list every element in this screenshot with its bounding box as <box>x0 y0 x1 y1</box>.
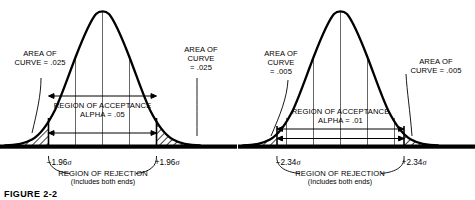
acceptance-region-label-line1: REGION OF ACCEPTANCE <box>284 107 397 116</box>
figure-caption: FIGURE 2-2 <box>4 189 58 199</box>
rejection-region-label-line2: (Includes both ends) <box>43 178 163 187</box>
critical-value-text-upper: +1.96 <box>155 158 176 167</box>
rejection-tail-left <box>11 11 103 146</box>
rejection-region-label-line1: REGION OF REJECTION <box>43 169 163 178</box>
acceptance-region-label-line1: REGION OF ACCEPTANCE <box>46 101 159 110</box>
critical-value-text-upper: +2.34 <box>402 158 423 167</box>
gridlines <box>287 11 395 146</box>
left-tail-area-annotation: AREA OF CURVE = .025 <box>2 49 78 67</box>
rejection-tail-left <box>249 11 341 146</box>
sigma-symbol-upper: σ <box>422 158 426 167</box>
right-tail-area-annotation: AREA OF CURVE = .005 <box>398 57 474 75</box>
rejection-region-label-line2: (Includes both ends) <box>280 178 400 187</box>
right-tail-area-annotation: AREA OF CURVE = .025 <box>172 45 230 72</box>
sigma-symbol-lower: σ <box>296 158 300 167</box>
chart-panel-alpha-01: AREA OF CURVE = .005 AREA OF CURVE = .00… <box>238 0 475 200</box>
rejection-tail-right <box>102 11 194 146</box>
acceptance-region-label-line2: ALPHA = .01 <box>284 116 397 125</box>
acceptance-region-label-line2: ALPHA = .05 <box>46 110 159 119</box>
left-tail-area-annotation: AREA OF CURVE = .005 <box>252 49 310 76</box>
figure-root: AREA OF CURVE = .025 AREA OF CURVE = .02… <box>0 0 475 200</box>
critical-value-text-lower: −2.34 <box>276 158 297 167</box>
chart-panel-alpha-05: AREA OF CURVE = .025 AREA OF CURVE = .02… <box>0 0 237 200</box>
sigma-symbol-lower: σ <box>67 158 71 167</box>
rejection-region-label-line1: REGION OF REJECTION <box>280 169 400 178</box>
rejection-tail-right <box>340 11 432 146</box>
gridlines <box>49 11 157 146</box>
critical-value-text-lower: −1.96 <box>47 158 68 167</box>
sigma-symbol-upper: σ <box>175 158 179 167</box>
